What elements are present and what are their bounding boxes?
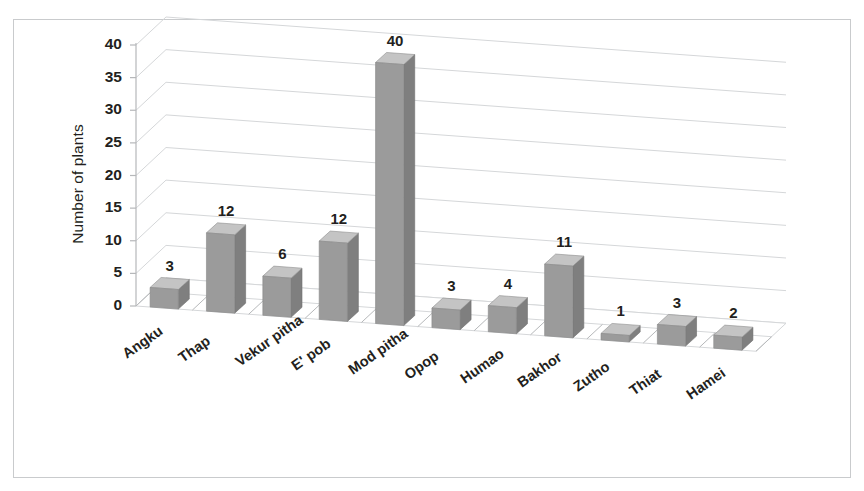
gridline-depth-10 [136, 213, 166, 241]
gridline-40 [166, 17, 786, 62]
gridline-30 [166, 82, 786, 127]
bar-side-face [235, 225, 246, 313]
gridline-depth-30 [136, 82, 166, 110]
bar-vekur-pitha[interactable] [263, 266, 302, 317]
bar-front-face [376, 62, 404, 325]
bar-e-pob[interactable] [319, 231, 358, 321]
y-tick-label-5: 5 [88, 263, 122, 281]
bar-value-label: 3 [136, 257, 204, 274]
bar-value-label: 11 [530, 233, 598, 250]
bar-value-label: 6 [248, 245, 316, 262]
bar-chart-3d: Number of plants 0510152025303540 AngkuT… [0, 0, 864, 491]
bar-front-face [150, 287, 178, 309]
bar-front-face [714, 335, 742, 350]
bar-opop[interactable] [432, 298, 471, 330]
bar-bakhor[interactable] [545, 254, 584, 338]
bar-value-label: 12 [305, 210, 373, 227]
chart-page: Number of plants 0510152025303540 AngkuT… [0, 0, 864, 491]
gridline-25 [166, 115, 786, 160]
gridline-depth-35 [136, 50, 166, 78]
bar-front-face [545, 264, 573, 338]
gridline-depth-40 [136, 17, 166, 45]
gridline-depth-25 [136, 115, 166, 143]
bar-mod-pitha[interactable] [376, 52, 415, 325]
bar-front-face [488, 306, 516, 334]
y-tick-label-35: 35 [88, 68, 122, 86]
bar-side-face [347, 233, 358, 321]
y-tick-label-10: 10 [88, 231, 122, 249]
chart-canvas [0, 0, 864, 491]
bar-front-face [206, 233, 234, 313]
bar-thiat[interactable] [657, 314, 696, 346]
y-tick-label-0: 0 [88, 296, 122, 314]
bar-front-face [263, 276, 291, 317]
bar-front-face [657, 324, 685, 346]
bar-value-label: 2 [699, 304, 767, 321]
bar-humao[interactable] [488, 296, 527, 334]
bar-front-face [319, 241, 347, 321]
y-tick-label-25: 25 [88, 133, 122, 151]
bar-angku[interactable] [150, 277, 189, 309]
bar-value-label: 40 [361, 32, 429, 49]
gridline-depth-15 [136, 180, 166, 208]
gridline-35 [166, 50, 786, 95]
y-axis-title: Number of plants [69, 94, 87, 274]
bar-value-label: 4 [474, 275, 542, 292]
y-tick-label-20: 20 [88, 166, 122, 184]
bar-thap[interactable] [206, 223, 245, 313]
bar-front-face [432, 308, 460, 330]
y-tick-label-30: 30 [88, 100, 122, 118]
y-tick-label-40: 40 [88, 35, 122, 53]
bar-value-label: 12 [192, 202, 260, 219]
bar-side-face [404, 55, 415, 326]
y-tick-label-15: 15 [88, 198, 122, 216]
bar-side-face [573, 256, 584, 338]
gridline-20 [166, 148, 786, 193]
gridline-depth-20 [136, 148, 166, 176]
